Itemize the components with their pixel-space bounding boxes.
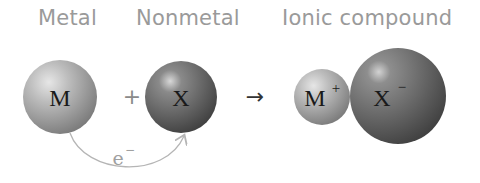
plus-sign: + [123, 84, 141, 109]
anion-symbol: X [373, 85, 390, 111]
cation-symbol: M [304, 85, 325, 111]
metal-atom: M [23, 60, 97, 134]
ionic-bond-diagram: M + X e − → M + X − [0, 0, 480, 183]
electron-charge: − [125, 143, 135, 157]
anion-sphere [350, 48, 446, 144]
cation-charge: + [332, 80, 340, 96]
anion-charge: − [398, 79, 406, 95]
electron-symbol: e [112, 147, 123, 169]
nonmetal-atom: X [145, 61, 217, 133]
nonmetal-symbol: X [172, 85, 189, 111]
reaction-arrow-icon: → [246, 84, 264, 109]
metal-symbol: M [49, 85, 70, 111]
ionic-compound: M + X − [294, 48, 446, 144]
